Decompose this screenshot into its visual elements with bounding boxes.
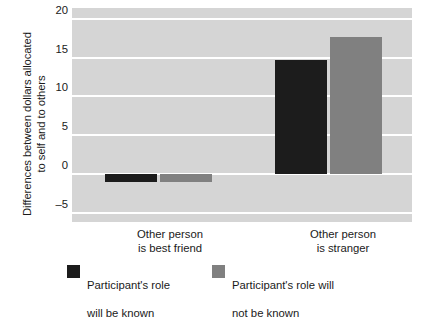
legend-label-line-1: Participant's role will: [232, 278, 334, 292]
y-axis-title-line-1: Differences between dollars allocated: [20, 32, 34, 216]
bar-stranger-role-not-known: [330, 37, 382, 174]
y-tick-label: 10: [42, 82, 68, 93]
legend-label-line-1: Participant's role: [87, 278, 170, 292]
legend-label-role-known: Participant's role will be known: [87, 264, 170, 321]
category-label-line-2: is stranger: [268, 242, 418, 256]
legend-label-role-not-known: Participant's role will not be known: [232, 264, 334, 321]
y-tick-label: –5: [42, 199, 68, 210]
y-tick-label: 20: [42, 5, 68, 16]
plot-area: [72, 8, 412, 222]
category-label-line-1: Other person: [268, 228, 418, 242]
bar-best-friend-role-not-known: [160, 174, 212, 182]
legend-swatch-role-not-known: [212, 265, 225, 278]
category-label-line-2: is best friend: [95, 242, 245, 256]
gridline: [72, 212, 412, 214]
category-label-line-1: Other person: [95, 228, 245, 242]
bar-stranger-role-known: [275, 60, 327, 174]
category-label-best-friend: Other person is best friend: [95, 228, 245, 255]
legend-item-role-not-known: Participant's role will not be known: [212, 264, 334, 321]
legend-label-line-2: not be known: [232, 306, 334, 320]
category-label-stranger: Other person is stranger: [268, 228, 418, 255]
legend-item-role-known: Participant's role will be known: [67, 264, 170, 321]
gridline: [72, 18, 412, 20]
y-tick-label: 5: [42, 121, 68, 132]
legend-label-line-2: will be known: [87, 306, 170, 320]
bar-best-friend-role-known: [105, 174, 157, 183]
legend-swatch-role-known: [67, 265, 80, 278]
y-tick-label: 15: [42, 44, 68, 55]
y-tick-label: 0: [42, 160, 68, 171]
y-axis-tick-labels: 20 15 10 5 0 –5: [40, 0, 68, 306]
